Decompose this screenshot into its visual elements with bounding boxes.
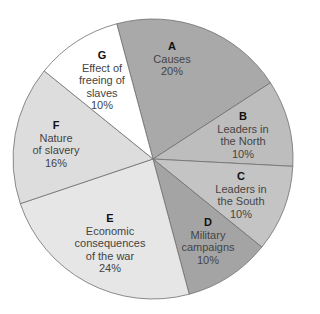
slice-label-text: Economic xyxy=(75,225,146,238)
slice-label-text: of slavery xyxy=(32,144,79,157)
slice-label-g: GEffect offreeing ofslaves10% xyxy=(79,49,125,112)
slice-key: B xyxy=(217,110,268,123)
slice-label-text: Nature xyxy=(32,132,79,145)
slice-key: F xyxy=(32,119,79,132)
slice-key: G xyxy=(79,49,125,62)
slice-label-text: of the war xyxy=(75,250,146,263)
slice-label-text: Leaders in xyxy=(215,183,266,196)
slice-label-text: the South xyxy=(215,195,266,208)
slice-key: D xyxy=(181,216,234,229)
slice-label-text: Effect of xyxy=(79,62,125,75)
slice-label-f: FNatureof slavery16% xyxy=(32,119,79,169)
slice-label-text: Military xyxy=(181,229,234,242)
slice-label-text: Causes xyxy=(153,53,190,66)
slice-key: C xyxy=(215,170,266,183)
slice-label-text: Leaders in xyxy=(217,123,268,136)
slice-label-c: CLeaders inthe South10% xyxy=(215,170,266,220)
slice-percent: 10% xyxy=(79,99,125,112)
slice-percent: 10% xyxy=(217,148,268,161)
slice-percent: 20% xyxy=(153,65,190,78)
slice-label-text: consequences xyxy=(75,237,146,250)
slice-label-a: ACauses20% xyxy=(153,40,190,78)
slice-percent: 10% xyxy=(181,254,234,267)
slice-label-e: EEconomicconsequencesof the war24% xyxy=(75,212,146,275)
slice-percent: 16% xyxy=(32,157,79,170)
slice-key: E xyxy=(75,212,146,225)
slice-label-b: BLeaders inthe North10% xyxy=(217,110,268,160)
slice-label-text: freeing of xyxy=(79,74,125,87)
slice-label-text: slaves xyxy=(79,87,125,100)
slice-percent: 24% xyxy=(75,262,146,275)
slice-key: A xyxy=(153,40,190,53)
slice-label-text: campaigns xyxy=(181,241,234,254)
slice-label-text: the North xyxy=(217,135,268,148)
slice-label-d: DMilitarycampaigns10% xyxy=(181,216,234,266)
